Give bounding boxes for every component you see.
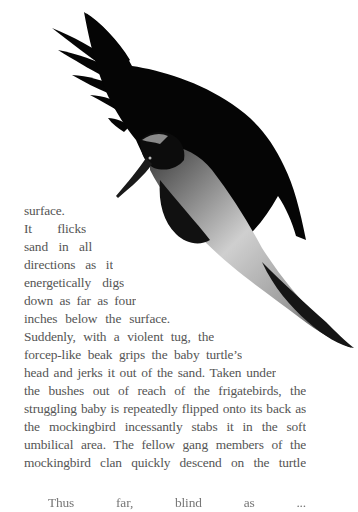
text-line: surface. [24, 202, 65, 220]
next-paragraph-partial: Thus far, blind as ... [48, 494, 306, 512]
text-line: mockingbird clan quickly descend on the … [24, 454, 306, 472]
text-line: the mockingbird incessantly stabs it in … [24, 418, 306, 436]
text-line: directions as it [24, 256, 113, 274]
text-line: head and jerks it out of the sand. Taken… [24, 364, 276, 382]
text-line: Suddenly, with a violent tug, the [24, 328, 214, 346]
text-line: inches below the surface. [24, 310, 170, 328]
text-line: energetically digs [24, 274, 124, 292]
text-line: It flicks [24, 220, 86, 238]
beak [116, 158, 152, 198]
text-line: sand in all [24, 238, 92, 256]
text-line: down as far as four [24, 292, 136, 310]
text-line: umbilical area. The fellow gang members … [24, 436, 306, 454]
text-line: struggling baby is repeatedly flipped on… [24, 400, 306, 418]
text-line: forcep-like beak grips the baby turtle’s [24, 346, 242, 364]
text-line: the bushes out of reach of the frigatebi… [24, 382, 306, 400]
